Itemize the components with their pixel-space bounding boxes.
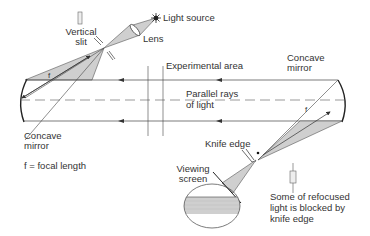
label-f-left: f (48, 70, 50, 81)
label-left-mirror-2: mirror (24, 140, 49, 151)
label-focal-length: f = focal length (24, 160, 86, 171)
vertical-slit-icon (78, 12, 82, 24)
label-knife-edge: Knife edge (205, 138, 250, 149)
label-experimental-area: Experimental area (166, 60, 243, 71)
left-beam-cone (25, 48, 104, 80)
label-viewing-screen-2: screen (175, 173, 211, 184)
focal-arrow-right (263, 112, 330, 155)
knife-edge (242, 150, 252, 162)
slit-plate-lower (107, 52, 113, 60)
left-concave-mirror (21, 79, 27, 122)
label-light-source: Light source (163, 12, 215, 23)
label-lens: Lens (143, 33, 164, 44)
label-parallel-rays-1: Parallel rays (186, 88, 238, 99)
label-parallel-rays-2: of light (186, 99, 214, 110)
label-note-1: Some of refocused (270, 191, 350, 202)
label-note-3: knife edge (270, 213, 314, 224)
right-concave-mirror (338, 80, 345, 122)
knife-edge-vertical-icon (290, 171, 296, 183)
light-source-icon (151, 13, 161, 23)
label-note-2: light is blocked by (270, 202, 345, 213)
label-right-mirror-2: mirror (287, 62, 312, 73)
right-beam-cone (258, 121, 342, 160)
label-vertical-slit-2: slit (61, 36, 101, 47)
label-f-right: f (305, 104, 307, 115)
